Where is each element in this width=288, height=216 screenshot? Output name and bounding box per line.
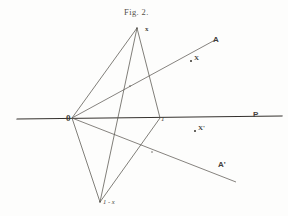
apex-bottom-dot bbox=[99, 201, 101, 203]
label-point-x-prime: X' bbox=[198, 125, 205, 132]
ray-origin-to-a bbox=[72, 40, 215, 118]
point-marker-x-prime bbox=[194, 130, 196, 132]
label-apex-top-x: x bbox=[145, 26, 149, 33]
geometric-construction-svg bbox=[0, 0, 288, 216]
label-point-x: X bbox=[194, 55, 199, 62]
label-ray-end-a-prime: A' bbox=[218, 161, 226, 169]
segment-apex-top-to-unit bbox=[137, 28, 160, 118]
baseline-axis bbox=[17, 116, 282, 119]
segment-origin-to-apex-bottom bbox=[72, 118, 100, 202]
label-origin-zero: 0 bbox=[66, 114, 71, 123]
label-axis-end-p: P bbox=[253, 111, 258, 119]
figure-caption: Fig. 2. bbox=[124, 8, 149, 17]
point-marker-x bbox=[190, 60, 192, 62]
label-ray-end-a: A bbox=[213, 36, 219, 44]
label-apex-bottom: 1 - x bbox=[103, 199, 115, 206]
label-unit-point: 1 bbox=[161, 116, 165, 123]
ray-origin-to-a-prime bbox=[72, 118, 236, 182]
intersection-dot-upper bbox=[129, 85, 130, 86]
apex-top-dot bbox=[136, 27, 138, 29]
figure-page: Fig. 2. x 0 1 P A A' X X' 1 - x bbox=[0, 0, 288, 216]
intersection-dot-lower bbox=[151, 151, 152, 152]
